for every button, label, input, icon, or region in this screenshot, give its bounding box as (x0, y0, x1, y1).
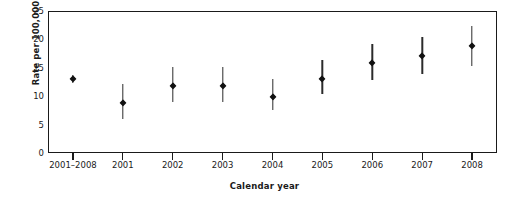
x-tick-label: 2008 (461, 160, 483, 170)
x-tick-label: 2007 (411, 160, 433, 170)
x-tick-mark (372, 153, 373, 160)
x-tick-label: 2004 (262, 160, 284, 170)
x-tick-label: 2005 (312, 160, 334, 170)
y-tick-label: 20 (18, 35, 44, 44)
y-tick-label: 0 (18, 149, 44, 158)
y-tick-label: 25 (18, 7, 44, 16)
x-tick-mark (471, 153, 472, 160)
x-tick-label: 2001–2008 (49, 160, 97, 170)
x-tick-mark (322, 153, 323, 160)
x-tick-label: 2001 (112, 160, 134, 170)
x-axis-title: Calendar year (0, 181, 529, 191)
x-tick-mark (272, 153, 273, 160)
y-axis-tick-labels: 25 20 15 10 5 0 (0, 0, 44, 200)
x-tick-mark (222, 153, 223, 160)
y-tick-label: 10 (18, 92, 44, 101)
y-tick-label: 15 (18, 64, 44, 73)
x-tick-mark (122, 153, 123, 160)
x-tick-mark (172, 153, 173, 160)
chart-figure: Rate per 100,000 25 20 15 10 5 0 2001–20… (0, 0, 529, 200)
y-tick-label: 5 (18, 121, 44, 130)
x-tick-mark (72, 153, 73, 160)
x-tick-mark (422, 153, 423, 160)
x-tick-label: 2002 (162, 160, 184, 170)
x-tick-label: 2003 (212, 160, 234, 170)
x-tick-label: 2006 (361, 160, 383, 170)
